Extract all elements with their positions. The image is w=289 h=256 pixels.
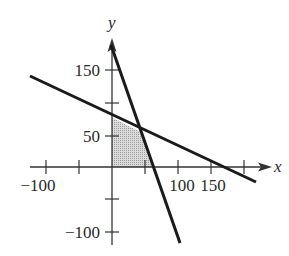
y-tick-label-neg100: −100 (65, 223, 100, 242)
y-tick-label-50: 50 (83, 127, 100, 146)
linear-inequality-graph: y x 150 50 −100 −100 100 150 (0, 0, 289, 256)
x-axis-label: x (273, 157, 282, 176)
y-tick-label-150: 150 (75, 61, 101, 80)
x-tick-label-150: 150 (200, 176, 226, 195)
x-tick-label-100: 100 (169, 176, 195, 195)
x-tick-label-neg100: −100 (20, 176, 55, 195)
y-axis-label: y (106, 13, 116, 32)
